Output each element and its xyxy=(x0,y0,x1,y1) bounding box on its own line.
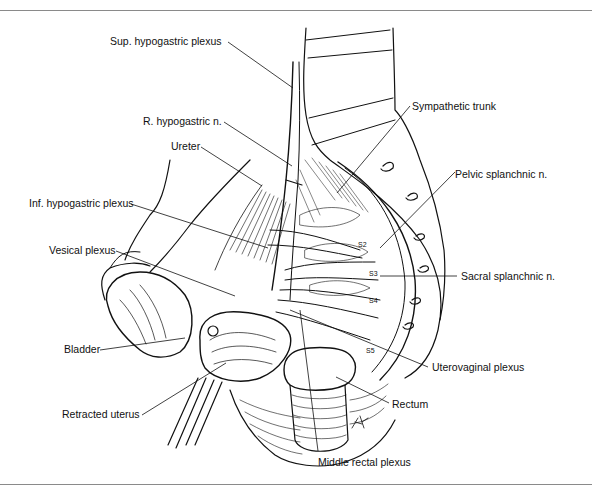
label-middle-rectal-plexus: Middle rectal plexus xyxy=(318,456,411,468)
rectum-outline xyxy=(284,348,355,391)
label-retracted-uterus: Retracted uterus xyxy=(62,408,140,420)
bladder-outline xyxy=(107,272,192,357)
label-sympathetic-trunk: Sympathetic trunk xyxy=(412,100,496,112)
label-bladder: Bladder xyxy=(64,343,100,355)
label-sacral-splanchnic-n: Sacral splanchnic n. xyxy=(461,270,555,282)
label-uterovaginal-plexus: Uterovaginal plexus xyxy=(432,361,524,373)
sacral-mark-s4: S4 xyxy=(369,297,378,304)
sacral-mark-s5: S5 xyxy=(366,347,375,354)
label-ureter: Ureter xyxy=(171,140,200,152)
leader-rectum xyxy=(336,377,389,403)
label-pelvic-splanchnic-n: Pelvic splanchnic n. xyxy=(455,168,547,180)
label-sup-hypogastric-plexus: Sup. hypogastric plexus xyxy=(110,35,221,47)
leader-middle-rectal xyxy=(300,310,318,451)
label-rectum: Rectum xyxy=(392,398,428,410)
sacral-mark-s2: S2 xyxy=(358,241,367,248)
label-r-hypogastric-n: R. hypogastric n. xyxy=(143,115,222,127)
sacral-mark-s3: S3 xyxy=(369,270,378,277)
leader-inf-hypogastric xyxy=(131,204,268,248)
leader-ureter xyxy=(201,147,262,186)
label-vesical-plexus: Vesical plexus xyxy=(49,244,116,256)
leader-vesical xyxy=(116,251,235,296)
leader-r-hypogastric xyxy=(224,122,292,166)
retractor xyxy=(168,378,222,448)
leader-sympathetic-trunk xyxy=(337,106,410,193)
leader-sup-hypogastric xyxy=(228,42,293,88)
leader-retracted-uterus xyxy=(142,363,226,415)
leader-bladder xyxy=(100,338,185,350)
label-inf-hypogastric-plexus: Inf. hypogastric plexus xyxy=(29,197,133,209)
